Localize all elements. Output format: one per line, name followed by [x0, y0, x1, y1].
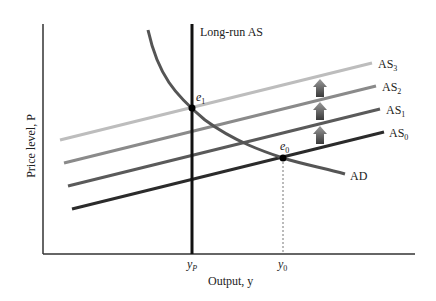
e1-label: e1	[196, 90, 205, 106]
yp-tick-label: yP	[186, 257, 197, 273]
as2-curve	[64, 86, 376, 163]
long-run-as-label: Long-run AS	[200, 25, 263, 39]
e0-point	[280, 155, 287, 162]
x-axis-label: Output, y	[208, 274, 253, 288]
as1-curve	[68, 109, 380, 186]
shift-up-arrow-icon	[313, 79, 327, 97]
shift-up-arrow-icon	[313, 126, 327, 144]
y0-tick-label: y0	[277, 257, 287, 273]
as1-label: AS1	[386, 103, 405, 119]
as0-label: AS0	[389, 126, 408, 142]
e1-point	[189, 105, 196, 112]
e0-label: e0	[280, 139, 289, 155]
as3-label: AS3	[378, 57, 397, 73]
as2-label: AS2	[382, 80, 401, 96]
ad-label: AD	[350, 169, 368, 183]
as-ad-diagram: Long-run AS AS3 AS2 AS1 AS0 AD e1 e0 yP …	[0, 0, 436, 301]
y-axis-label: Price level, P	[24, 114, 38, 178]
shift-up-arrow-icon	[313, 102, 327, 120]
